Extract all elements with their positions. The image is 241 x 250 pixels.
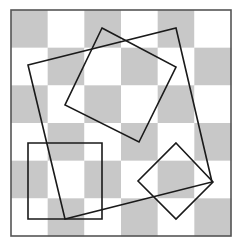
light-cell [11,123,48,161]
diagram-canvas [0,0,241,250]
dark-cell [158,161,195,199]
dark-cell [121,48,158,86]
dark-cell [11,161,48,199]
light-cell [11,48,48,86]
dark-cell [84,161,121,199]
light-cell [84,198,121,236]
dark-cell [11,10,48,48]
light-cell [158,198,195,236]
light-cell [194,85,231,123]
light-cell [11,198,48,236]
light-cell [194,161,231,199]
dark-cell [48,123,85,161]
light-cell [194,10,231,48]
dark-cell [48,198,85,236]
light-cell [121,85,158,123]
dark-cell [48,48,85,86]
checkerboard-diagram [0,0,241,250]
dark-cell [194,48,231,86]
light-cell [48,10,85,48]
light-cell [121,10,158,48]
dark-cell [158,85,195,123]
dark-cell [11,85,48,123]
light-cell [84,123,121,161]
dark-cell [194,198,231,236]
light-cell [48,161,85,199]
